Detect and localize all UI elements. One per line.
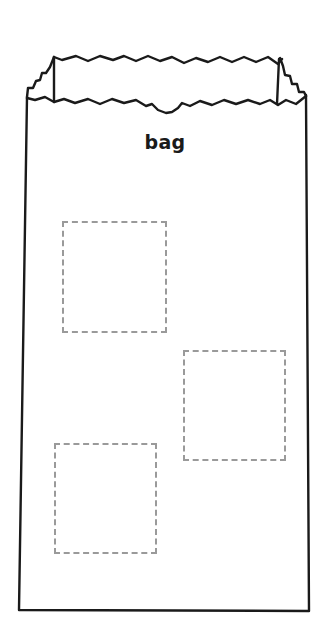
dashed-drawing-box-1[interactable] [62, 221, 167, 333]
dashed-drawing-box-2[interactable] [183, 350, 286, 461]
bag-worksheet: bag [0, 0, 330, 641]
worksheet-title: bag [0, 131, 330, 153]
dashed-drawing-box-3[interactable] [54, 443, 157, 554]
